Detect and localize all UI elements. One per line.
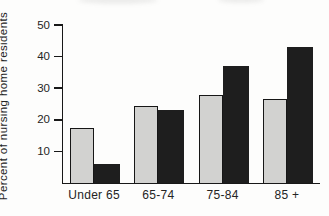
y-tick-20 bbox=[54, 119, 63, 121]
y-tick-40 bbox=[54, 56, 63, 58]
bar-group-1 bbox=[63, 25, 127, 183]
y-tick-label-10: 10 bbox=[24, 145, 50, 158]
y-tick-label-20: 20 bbox=[24, 113, 50, 126]
bar-group-4 bbox=[256, 25, 320, 183]
y-tick-label-30: 30 bbox=[24, 82, 50, 95]
plot-area: 1020304050 bbox=[62, 25, 320, 184]
black-bars-4 bbox=[287, 47, 313, 183]
bar-chart-figure: Percent of nursing home residents 102030… bbox=[0, 0, 329, 216]
scan-artifact bbox=[218, 0, 264, 3]
x-category-label-2: 65-74 bbox=[126, 188, 190, 202]
x-category-label-4: 85 + bbox=[255, 188, 319, 202]
y-axis-title-text: Percent of nursing home residents bbox=[0, 12, 9, 200]
y-tick-30 bbox=[54, 87, 63, 89]
x-category-label-3: 75-84 bbox=[191, 188, 255, 202]
x-axis-labels: Under 6565-7475-8485 + bbox=[62, 188, 319, 202]
black-bars-3 bbox=[223, 66, 249, 183]
light-gray-bars-2 bbox=[134, 106, 158, 183]
black-bars-1 bbox=[94, 164, 120, 183]
x-category-label-1: Under 65 bbox=[62, 188, 126, 202]
bar-groups bbox=[63, 25, 320, 183]
scan-artifact bbox=[78, 0, 158, 4]
light-gray-bars-4 bbox=[263, 99, 287, 183]
y-tick-50 bbox=[54, 24, 63, 26]
y-tick-label-50: 50 bbox=[24, 19, 50, 32]
black-bars-2 bbox=[158, 110, 184, 183]
bar-group-2 bbox=[127, 25, 191, 183]
y-tick-10 bbox=[54, 151, 63, 153]
bar-group-3 bbox=[192, 25, 256, 183]
light-gray-bars-3 bbox=[199, 95, 223, 183]
light-gray-bars-1 bbox=[70, 128, 94, 183]
y-tick-label-40: 40 bbox=[24, 50, 50, 63]
